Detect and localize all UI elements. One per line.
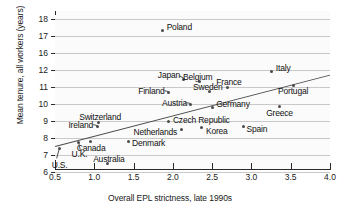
x-tick-mark [251, 163, 252, 170]
x-tick-mark [94, 163, 95, 170]
point-label: Greece [266, 108, 293, 118]
point-label: Portugal [278, 86, 308, 96]
y-tick-mark [51, 87, 55, 88]
y-tick-label: 8 [8, 138, 48, 139]
data-point [127, 140, 130, 143]
point-label: Korea [206, 126, 228, 136]
point-label: Belgium [183, 72, 212, 82]
x-tick-label: 3.0 [236, 172, 266, 182]
y-tick-label: 10 [8, 104, 48, 105]
point-label: Japan [158, 70, 180, 80]
gridline [55, 138, 330, 139]
scatter-chart: Mean tenure, all workers (years) Overall… [0, 0, 340, 211]
x-tick-mark [134, 163, 135, 170]
data-point [242, 125, 245, 128]
x-axis-line [55, 169, 330, 170]
y-tick-label: 18 [8, 19, 48, 20]
x-tick-label: 1.0 [79, 172, 109, 182]
y-tick-mark [51, 138, 55, 139]
y-tick-mark [51, 19, 55, 20]
y-tick-label: 12 [8, 70, 48, 71]
point-label: Spain [247, 124, 268, 134]
y-tick-mark [51, 104, 55, 105]
y-tick-mark [51, 121, 55, 122]
data-point [180, 128, 183, 131]
x-tick-label: 2.0 [158, 172, 188, 182]
x-axis-title: Overall EPL strictness, late 1990s [0, 193, 340, 203]
point-label: Ireland [68, 120, 93, 130]
point-label: Czech Republic [173, 115, 230, 125]
point-label: Denmark [132, 138, 165, 148]
point-label: Italy [276, 63, 291, 73]
x-tick-label: 2.5 [197, 172, 227, 182]
gridline [55, 19, 330, 20]
y-tick-label: 16 [8, 53, 48, 54]
point-label: Germany [216, 99, 250, 109]
x-tick-mark [212, 163, 213, 170]
data-point [211, 106, 214, 109]
y-axis-line-top [55, 11, 56, 15]
gridline [55, 36, 330, 37]
x-tick-mark [173, 163, 174, 170]
x-tick-mark [330, 163, 331, 170]
point-label: Australia [93, 154, 124, 164]
x-tick-label: 1.5 [119, 172, 149, 182]
y-tick-label: 7 [8, 155, 48, 156]
x-tick-label: 4.0 [315, 172, 340, 182]
y-tick-label: 11 [8, 87, 48, 88]
gridline [55, 104, 330, 105]
point-label: Finland [138, 86, 164, 96]
y-tick-mark [51, 155, 55, 156]
point-label: Sweden [193, 82, 223, 92]
point-label: Netherlands [134, 127, 178, 137]
y-tick-mark [51, 36, 55, 37]
x-tick-mark [291, 163, 292, 170]
y-tick-label: 9 [8, 121, 48, 122]
gridline [55, 53, 330, 54]
point-label: Austria [162, 98, 187, 108]
point-label: U.S. [52, 160, 68, 170]
x-tick-label: 3.5 [276, 172, 306, 182]
y-tick-mark [51, 53, 55, 54]
point-label: Poland [167, 22, 192, 32]
y-tick-label: 17 [8, 36, 48, 37]
x-tick-label: 0.5 [40, 172, 70, 182]
y-tick-mark [51, 70, 55, 71]
